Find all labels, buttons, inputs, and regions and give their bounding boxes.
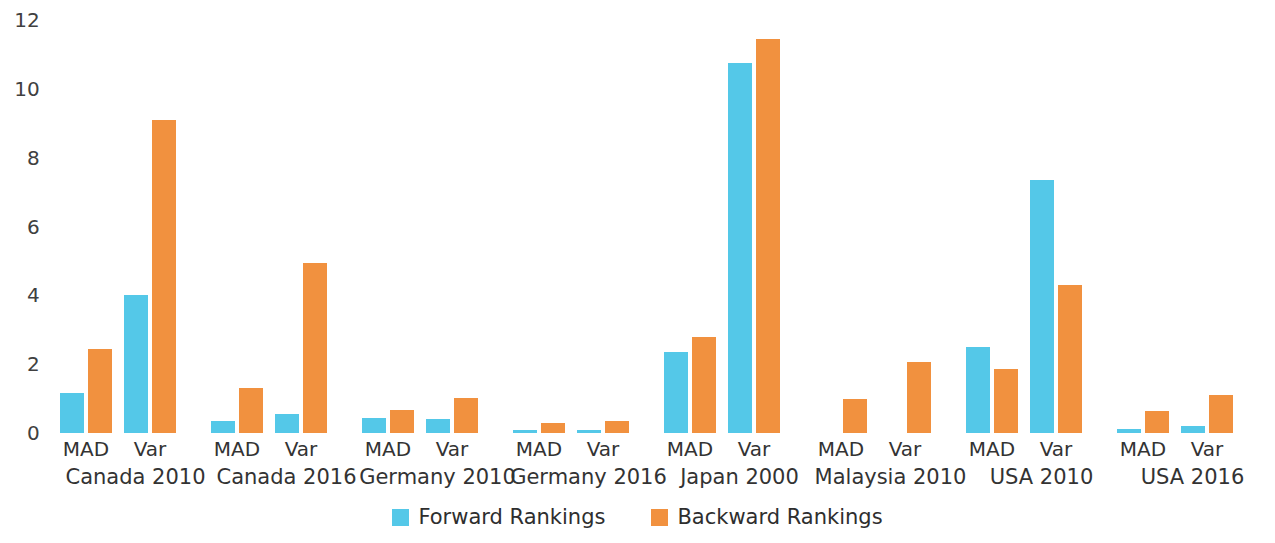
x-axis-metric-label: Var — [889, 437, 922, 461]
x-axis-group-label: Malaysia 2010 — [815, 465, 967, 489]
metric-label-row: MADVar — [966, 433, 1117, 463]
bar-backward — [1145, 411, 1169, 433]
x-axis-metric-label: MAD — [214, 437, 260, 461]
y-axis-tick-label: 12 — [14, 8, 40, 32]
y-axis-tick-label: 4 — [27, 283, 40, 307]
bar-backward — [303, 263, 327, 433]
x-axis-metric-label: MAD — [516, 437, 562, 461]
x-axis-metric-label: MAD — [667, 437, 713, 461]
bar-backward — [605, 421, 629, 433]
bar-backward — [541, 423, 565, 433]
bar-backward — [843, 399, 867, 433]
bar-forward — [1181, 426, 1205, 433]
bar-chart: 024681012 MADVarCanada 2010MADVarCanada … — [0, 0, 1275, 543]
bar-forward — [362, 418, 386, 433]
bar-forward — [1030, 180, 1054, 433]
x-axis-metric-label: MAD — [818, 437, 864, 461]
x-axis-group: MADVarCanada 2016 — [211, 433, 362, 463]
bar-forward — [124, 295, 148, 433]
y-axis: 024681012 — [0, 0, 46, 450]
x-axis-group-label: USA 2016 — [1141, 465, 1245, 489]
y-axis-tick-label: 0 — [27, 421, 40, 445]
y-axis-tick-label: 8 — [27, 146, 40, 170]
metric-label-row: MADVar — [60, 433, 211, 463]
x-axis-group-label: USA 2010 — [990, 465, 1094, 489]
legend-label: Backward Rankings — [677, 505, 882, 529]
bar-group — [513, 0, 664, 433]
bar-group — [60, 0, 211, 433]
legend-swatch-icon — [651, 509, 668, 526]
legend-label: Forward Rankings — [418, 505, 605, 529]
x-axis-group-label: Japan 2000 — [680, 465, 799, 489]
x-axis-metric-label: MAD — [1120, 437, 1166, 461]
x-axis-metric-label: Var — [1191, 437, 1224, 461]
bar-group — [211, 0, 362, 433]
x-axis-metric-label: Var — [587, 437, 620, 461]
legend-swatch-icon — [392, 509, 409, 526]
bar-backward — [1058, 285, 1082, 433]
x-axis-group: MADVarUSA 2010 — [966, 433, 1117, 463]
bar-backward — [907, 362, 931, 433]
bar-backward — [152, 120, 176, 433]
bar-group — [1117, 0, 1268, 433]
y-axis-tick-label: 2 — [27, 352, 40, 376]
bar-backward — [454, 398, 478, 433]
x-axis-metric-label: Var — [285, 437, 318, 461]
metric-label-row: MADVar — [211, 433, 362, 463]
x-axis-group-label: Germany 2016 — [510, 465, 667, 489]
bar-forward — [211, 421, 235, 433]
x-axis-group: MADVarGermany 2016 — [513, 433, 664, 463]
y-axis-tick-label: 6 — [27, 215, 40, 239]
bar-group — [815, 0, 966, 433]
x-axis-metric-label: Var — [738, 437, 771, 461]
metric-label-row: MADVar — [513, 433, 664, 463]
plot-area — [46, 0, 1275, 433]
bar-forward — [966, 347, 990, 433]
x-axis-group-label: Canada 2016 — [216, 465, 356, 489]
bar-forward — [664, 352, 688, 433]
metric-label-row: MADVar — [1117, 433, 1268, 463]
x-axis: MADVarCanada 2010MADVarCanada 2016MADVar… — [46, 433, 1275, 503]
x-axis-metric-label: MAD — [969, 437, 1015, 461]
bar-forward — [426, 419, 450, 433]
chart-legend: Forward RankingsBackward Rankings — [0, 505, 1275, 529]
legend-item[interactable]: Forward Rankings — [392, 505, 605, 529]
y-axis-tick-label: 10 — [14, 77, 40, 101]
bar-backward — [756, 39, 780, 433]
x-axis-group: MADVarJapan 2000 — [664, 433, 815, 463]
x-axis-group-label: Canada 2010 — [65, 465, 205, 489]
bar-forward — [275, 414, 299, 433]
x-axis-group: MADVarUSA 2016 — [1117, 433, 1268, 463]
metric-label-row: MADVar — [815, 433, 966, 463]
bar-group — [664, 0, 815, 433]
x-axis-metric-label: Var — [134, 437, 167, 461]
x-axis-group-label: Germany 2010 — [359, 465, 516, 489]
x-axis-group: MADVarCanada 2010 — [60, 433, 211, 463]
bar-backward — [88, 349, 112, 433]
bar-forward — [728, 63, 752, 433]
bar-forward — [60, 393, 84, 433]
x-axis-metric-label: MAD — [63, 437, 109, 461]
x-axis-metric-label: MAD — [365, 437, 411, 461]
bar-group — [362, 0, 513, 433]
x-axis-group: MADVarMalaysia 2010 — [815, 433, 966, 463]
metric-label-row: MADVar — [664, 433, 815, 463]
metric-label-row: MADVar — [362, 433, 513, 463]
legend-item[interactable]: Backward Rankings — [651, 505, 882, 529]
bar-backward — [1209, 395, 1233, 433]
x-axis-metric-label: Var — [436, 437, 469, 461]
bar-backward — [994, 369, 1018, 433]
bar-backward — [390, 410, 414, 433]
x-axis-group: MADVarGermany 2010 — [362, 433, 513, 463]
bar-backward — [692, 337, 716, 433]
bar-backward — [239, 388, 263, 433]
x-axis-metric-label: Var — [1040, 437, 1073, 461]
bar-group — [966, 0, 1117, 433]
